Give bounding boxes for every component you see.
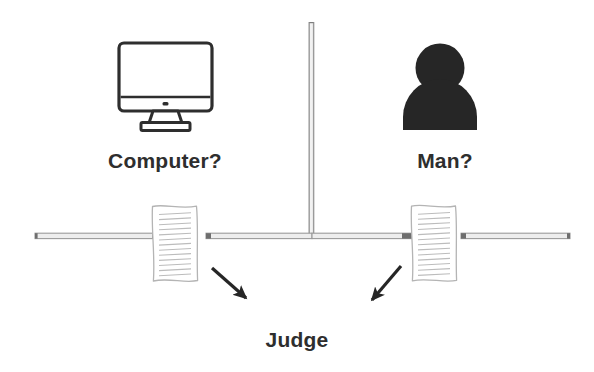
- paper-document-left: [152, 206, 197, 282]
- diagram-illustration: [0, 0, 594, 372]
- vertical-divider-wall: [309, 22, 315, 236]
- person-silhouette-icon: [403, 44, 477, 131]
- wall-segment-left-outer: [35, 233, 157, 238]
- arrow-down-right-icon: [212, 268, 246, 298]
- arrow-down-left-icon: [372, 266, 401, 300]
- desktop-monitor-icon: [119, 43, 212, 131]
- judge-label: Judge: [0, 328, 594, 352]
- man-label: Man?: [330, 149, 560, 173]
- paper-document-right: [411, 205, 456, 281]
- wall-group: [35, 22, 570, 239]
- wall-segment-right-outer: [461, 233, 570, 238]
- diagram-canvas: Computer? Man? Judge: [0, 0, 594, 372]
- wall-segment-left-inner: [206, 233, 312, 238]
- computer-label: Computer?: [0, 149, 330, 173]
- wall-segment-right-inner: [312, 233, 412, 238]
